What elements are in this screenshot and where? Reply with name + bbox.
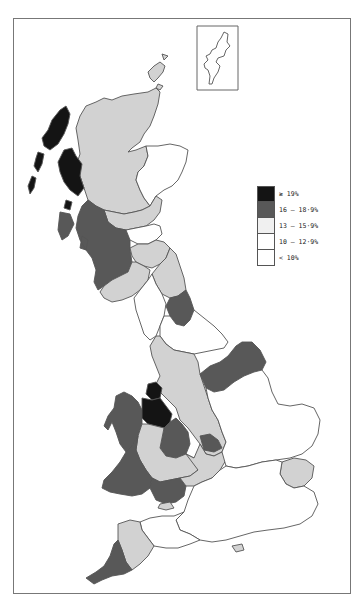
legend-swatch (257, 250, 275, 266)
region-glamorgan (150, 478, 186, 504)
legend-item-lt10: < 10% (257, 250, 318, 266)
legend-item-10-12-9: 10 – 12·9% (257, 234, 318, 250)
legend-item-16-18-9: 16 – 18·9% (257, 202, 318, 218)
region-isle-of-wight (232, 544, 244, 552)
legend-swatch (257, 202, 275, 218)
legend-swatch (257, 186, 275, 202)
legend-item-13-15-9: 13 – 15·9% (257, 218, 318, 234)
legend-label: < 10% (279, 254, 299, 262)
legend-label: 13 – 15·9% (279, 222, 318, 230)
legend-swatch (257, 234, 275, 250)
region-clwyd (142, 398, 172, 428)
region-orkney (148, 54, 168, 90)
legend: ≥ 19% 16 – 18·9% 13 – 15·9% 10 – 12·9% <… (257, 186, 318, 266)
legend-label: ≥ 19% (279, 190, 299, 198)
uk-choropleth-map (0, 0, 364, 607)
legend-swatch (257, 218, 275, 234)
legend-item-ge19: ≥ 19% (257, 186, 318, 202)
legend-label: 16 – 18·9% (279, 206, 318, 214)
legend-label: 10 – 12·9% (279, 238, 318, 246)
